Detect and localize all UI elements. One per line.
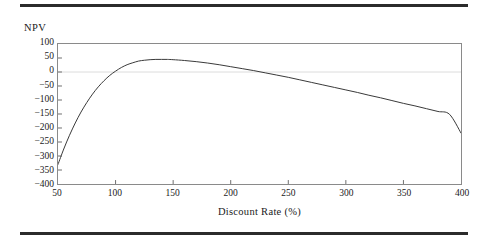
y-axis-label: NPV [24, 22, 46, 33]
x-tick-label: 150 [166, 189, 180, 199]
y-tick-label: −300 [18, 152, 54, 162]
x-axis-tick-labels: 50100150200250300350400 [57, 189, 462, 203]
y-tick-label: −250 [18, 138, 54, 148]
y-tick-label: −400 [18, 180, 54, 190]
y-tick-label: −200 [18, 123, 54, 133]
npv-curve-svg [58, 44, 461, 184]
y-tick-label: −50 [18, 81, 54, 91]
x-tick-label: 100 [108, 189, 122, 199]
x-axis-label: Discount Rate (%) [57, 206, 462, 217]
y-tick-label: 50 [18, 52, 54, 62]
x-tick-label: 50 [52, 189, 62, 199]
y-tick-label: −150 [18, 109, 54, 119]
y-tick-label: 100 [18, 38, 54, 48]
y-tick-label: −350 [18, 166, 54, 176]
y-axis-tick-labels: 100500−50−100−150−200−250−300−350−400 [14, 43, 54, 185]
bottom-rule [20, 232, 468, 235]
x-tick-label: 350 [397, 189, 411, 199]
x-tick-label: 400 [455, 189, 469, 199]
x-tick-label: 200 [223, 189, 237, 199]
y-axis-ticks [58, 58, 62, 170]
plot-area [57, 43, 462, 185]
y-tick-label: −100 [18, 95, 54, 105]
x-tick-label: 250 [281, 189, 295, 199]
npv-curve [58, 59, 461, 164]
chart-figure: NPV 100500−50−100−150−200−250−300−350−40… [0, 14, 487, 230]
x-tick-label: 300 [339, 189, 353, 199]
y-tick-label: 0 [18, 67, 54, 77]
top-rule [20, 4, 468, 7]
x-axis-ticks [116, 180, 404, 184]
